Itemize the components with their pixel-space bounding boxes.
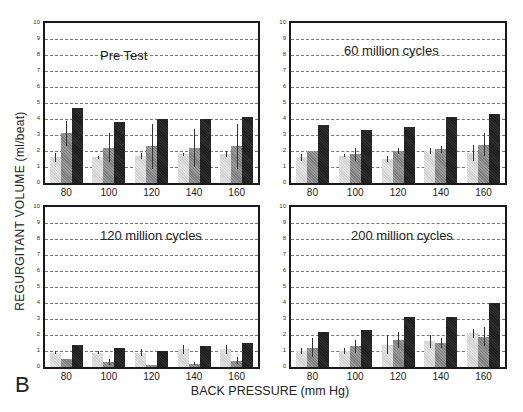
gridline <box>45 71 258 72</box>
error-bar <box>398 332 399 348</box>
gridline <box>45 255 258 256</box>
bar-close <box>92 157 103 183</box>
error-bar <box>484 327 485 346</box>
y-tick-label: 2 <box>28 147 40 153</box>
gridline <box>45 287 258 288</box>
bar-leak <box>146 365 157 367</box>
y-tick-label: 10 <box>28 203 40 209</box>
x-tick-label: 140 <box>179 371 209 382</box>
error-bar <box>387 335 388 354</box>
panel-title: 200 million cycles <box>351 228 453 243</box>
gridline <box>291 271 505 272</box>
error-bar <box>98 156 99 159</box>
error-bar <box>430 335 431 348</box>
y-tick-label: 9 <box>28 219 40 225</box>
bar-total <box>446 317 457 367</box>
x-tick-label: 120 <box>137 371 167 382</box>
bar-total <box>72 108 83 183</box>
bar-close <box>92 353 103 367</box>
bar-close <box>296 157 307 183</box>
x-tick-label: 140 <box>179 187 209 198</box>
bar-total <box>242 343 253 367</box>
y-tick-label: 8 <box>274 51 286 57</box>
gridline <box>291 87 505 88</box>
bar-total <box>200 346 211 367</box>
x-tick-label: 120 <box>137 187 167 198</box>
bar-total <box>361 330 372 367</box>
error-bar <box>344 154 345 157</box>
y-tick-label: 0 <box>274 179 286 185</box>
y-tick-label: 8 <box>28 235 40 241</box>
y-tick-label: 5 <box>28 283 40 289</box>
y-tick-label: 4 <box>28 115 40 121</box>
error-bar <box>183 153 184 156</box>
y-tick-label: 10 <box>274 19 286 25</box>
x-tick-label: 100 <box>340 187 370 198</box>
gridline <box>291 303 505 304</box>
y-tick-label: 7 <box>28 67 40 73</box>
bar-close <box>178 154 189 183</box>
gridline <box>45 55 258 56</box>
error-bar <box>301 348 302 354</box>
y-tick-label: 4 <box>28 299 40 305</box>
error-bar <box>55 153 56 163</box>
error-bar <box>312 338 313 357</box>
y-tick-label: 2 <box>28 331 40 337</box>
error-bar <box>226 151 227 157</box>
y-tick-label: 0 <box>28 363 40 369</box>
error-bar <box>183 345 184 355</box>
y-tick-label: 5 <box>274 283 286 289</box>
x-tick-label: 140 <box>426 187 456 198</box>
error-bar <box>109 359 110 365</box>
error-bar <box>484 133 485 155</box>
bar-total <box>489 303 500 367</box>
error-bar <box>344 348 345 354</box>
y-tick-label: 2 <box>274 147 286 153</box>
y-tick-label: 10 <box>28 19 40 25</box>
chart-panel-1 <box>43 21 260 185</box>
y-tick-label: 0 <box>274 363 286 369</box>
error-bar <box>98 351 99 354</box>
y-tick-label: 0 <box>28 179 40 185</box>
y-tick-label: 1 <box>274 163 286 169</box>
gridline <box>291 287 505 288</box>
y-tick-label: 9 <box>274 35 286 41</box>
error-bar <box>237 124 238 169</box>
error-bar <box>387 156 388 162</box>
bar-total <box>242 117 253 183</box>
y-tick-label: 4 <box>274 299 286 305</box>
error-bar <box>55 351 56 354</box>
x-tick-label: 80 <box>297 371 327 382</box>
bar-total <box>114 122 125 183</box>
error-bar <box>441 338 442 348</box>
y-tick-label: 5 <box>28 99 40 105</box>
error-bar <box>473 145 474 161</box>
bar-leak <box>435 149 446 183</box>
bar-total <box>489 114 500 183</box>
gridline <box>291 319 505 320</box>
y-tick-label: 3 <box>274 131 286 137</box>
error-bar <box>66 121 67 147</box>
bar-total <box>72 345 83 367</box>
bar-total <box>157 351 168 367</box>
gridline <box>45 223 258 224</box>
panel-title: 60 million cycles <box>344 43 439 58</box>
gridline <box>291 255 505 256</box>
y-tick-label: 3 <box>28 131 40 137</box>
y-tick-label: 6 <box>274 267 286 273</box>
gridline <box>45 319 258 320</box>
bar-total <box>446 117 457 183</box>
x-tick-label: 160 <box>469 371 499 382</box>
panel-title: 120 million cycles <box>100 228 202 243</box>
error-bar <box>194 362 195 365</box>
y-tick-label: 7 <box>274 67 286 73</box>
gridline <box>291 103 505 104</box>
error-bar <box>237 357 238 363</box>
bar-close <box>467 333 478 367</box>
x-axis-label: BACK PRESSURE (mm Hg) <box>170 384 370 398</box>
x-tick-label: 100 <box>340 371 370 382</box>
y-tick-label: 4 <box>274 115 286 121</box>
bar-total <box>404 127 415 183</box>
error-bar <box>398 148 399 154</box>
y-tick-label: 9 <box>274 219 286 225</box>
